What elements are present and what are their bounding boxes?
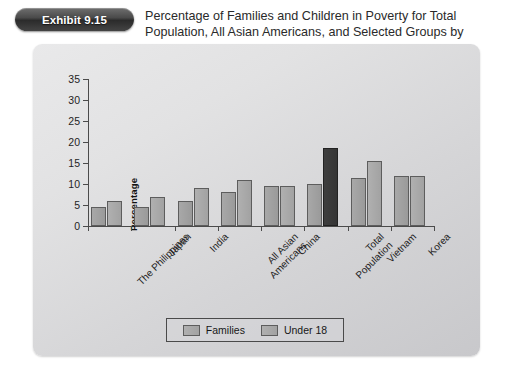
- x-axis-tick: [131, 226, 132, 231]
- bar-group: [391, 79, 434, 226]
- bar-families: [134, 207, 149, 226]
- x-axis-tick: [434, 226, 435, 231]
- bar-group: [175, 79, 218, 226]
- bar-under-18: [323, 148, 338, 226]
- y-axis-tick-label: 20: [68, 136, 80, 148]
- legend-swatch-families: [183, 325, 200, 336]
- exhibit-badge-label: Exhibit 9.15: [42, 14, 107, 26]
- y-axis-tick-label: 25: [68, 115, 80, 127]
- bar-families: [91, 207, 106, 226]
- y-axis-tick-label: 0: [74, 220, 80, 232]
- legend-label-under18: Under 18: [284, 324, 327, 336]
- bar-group: [348, 79, 391, 226]
- bar-families: [178, 201, 193, 226]
- exhibit-badge: Exhibit 9.15: [15, 8, 134, 31]
- bar-group: [304, 79, 347, 226]
- legend-label-families: Families: [206, 324, 245, 336]
- x-axis-tick: [88, 226, 89, 231]
- bar-families: [394, 176, 409, 226]
- x-axis-tick: [218, 226, 219, 231]
- bar-families: [264, 186, 279, 226]
- legend-item-families: Families: [183, 324, 245, 336]
- bar-families: [221, 192, 236, 226]
- bar-under-18: [280, 186, 295, 226]
- y-axis-tick-label: 15: [68, 157, 80, 169]
- bar-chart-plot: Percentage 05101520253035The Philippines…: [88, 79, 434, 226]
- bar-under-18: [107, 201, 122, 226]
- bar-under-18: [150, 197, 165, 226]
- bar-families: [307, 184, 322, 226]
- x-axis-tick: [261, 226, 262, 231]
- bar-group: [131, 79, 174, 226]
- x-axis-tick: [348, 226, 349, 231]
- y-axis-tick-label: 5: [74, 199, 80, 211]
- y-axis-tick-label: 10: [68, 178, 80, 190]
- x-axis-tick: [304, 226, 305, 231]
- x-axis-tick: [391, 226, 392, 231]
- y-axis-tick-label: 30: [68, 94, 80, 106]
- bar-under-18: [194, 188, 209, 226]
- bar-families: [351, 178, 366, 226]
- x-axis-tick: [175, 226, 176, 231]
- exhibit-figure: Exhibit 9.15 Percentage of Families and …: [0, 0, 508, 373]
- chart-legend: Families Under 18: [166, 318, 344, 342]
- bar-group: [88, 79, 131, 226]
- bar-group: [261, 79, 304, 226]
- bar-under-18: [367, 161, 382, 226]
- legend-item-under18: Under 18: [261, 324, 327, 336]
- bar-group: [218, 79, 261, 226]
- y-axis-tick-label: 35: [68, 73, 80, 85]
- legend-swatch-under18: [261, 325, 278, 336]
- bar-under-18: [237, 180, 252, 226]
- bar-under-18: [410, 176, 425, 226]
